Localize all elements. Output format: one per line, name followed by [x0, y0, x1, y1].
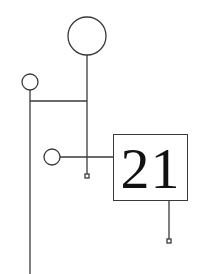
number-box: 21 [113, 134, 188, 201]
terminal-square-node [167, 239, 171, 243]
small-circle-node-top [22, 74, 38, 90]
small-circle-node-middle [44, 149, 60, 165]
large-circle-node [68, 17, 106, 55]
diagram-canvas: 21 [0, 0, 204, 274]
terminal-square-node [85, 174, 89, 178]
box-label: 21 [121, 140, 181, 198]
